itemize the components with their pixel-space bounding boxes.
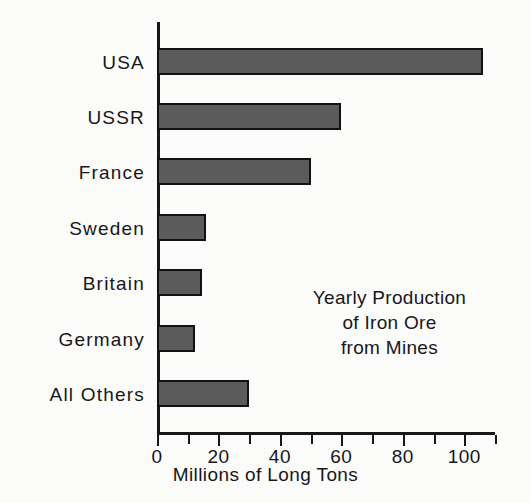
annotation-line-3: from Mines [282,335,497,360]
bar-germany [157,325,195,352]
x-tick-10 [188,435,190,444]
y-axis-label-ussr: USSR [87,108,145,127]
x-tick-0 [157,435,159,446]
x-tick-20 [218,435,220,446]
x-axis-line [157,432,495,435]
x-tick-80 [403,435,405,446]
annotation-line-2: of Iron Ore [282,310,497,335]
x-tick-90 [434,435,436,444]
x-tick-40 [280,435,282,446]
x-tick-50 [311,435,313,444]
x-tick-60 [341,435,343,446]
chart-annotation: Yearly Production of Iron Ore from Mines [282,285,497,360]
y-axis-label-sweden: Sweden [69,219,145,238]
x-axis-title: Millions of Long Tons [0,464,531,486]
bar-france [157,158,311,185]
y-axis-label-france: France [79,163,145,182]
plot-area: 020406080100 [157,22,495,432]
bar-usa [157,48,483,75]
bar-chart: USA USSR France Sweden Britain Germany A… [0,0,531,503]
annotation-line-1: Yearly Production [282,285,497,310]
bar-britain [157,269,202,296]
bar-all-others [157,380,249,407]
x-tick-70 [372,435,374,444]
x-tick-100 [464,435,466,446]
y-axis-label-germany: Germany [58,330,145,349]
y-axis-label-all-others: All Others [50,385,145,404]
x-tick-110 [495,435,497,444]
x-tick-30 [249,435,251,444]
bar-sweden [157,214,206,241]
y-axis-label-usa: USA [102,53,145,72]
y-axis-labels: USA USSR France Sweden Britain Germany A… [10,0,145,503]
bar-ussr [157,103,341,130]
y-axis-label-britain: Britain [83,274,145,293]
